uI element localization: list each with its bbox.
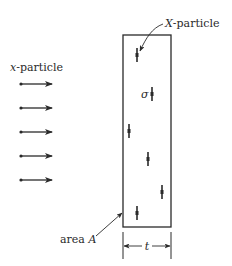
scattering-target-diagram: x-particle [0, 0, 232, 266]
incident-particle-label: x-particle [10, 61, 63, 74]
target-particle-label: X-particle [164, 17, 220, 30]
incident-particle-arrow [19, 178, 52, 181]
incident-particle-arrow [19, 106, 52, 109]
incident-particle-arrow [19, 130, 52, 133]
thickness-dimension: t [123, 232, 171, 259]
target-particle [147, 152, 150, 166]
target-particle [128, 124, 131, 138]
area-label-text: area [60, 233, 88, 246]
area-label: area A [60, 233, 96, 246]
target-particle [136, 206, 139, 220]
incident-particle-arrow [19, 154, 52, 157]
incident-particle-arrow [19, 82, 52, 85]
target-particle [161, 185, 164, 199]
area-leader-arrow-icon [96, 213, 122, 236]
target-particle [136, 48, 139, 62]
target-particles [128, 48, 164, 220]
thickness-symbol: t [145, 240, 150, 253]
target-particle-text: -particle [173, 17, 220, 30]
incident-particle-text: -particle [16, 61, 63, 74]
area-symbol: A [87, 233, 96, 246]
incident-particle-beam [19, 82, 52, 181]
target-particle-leader-arrow-icon [140, 24, 163, 51]
target-particle [151, 87, 154, 101]
cross-section-symbol: σ [141, 88, 149, 101]
